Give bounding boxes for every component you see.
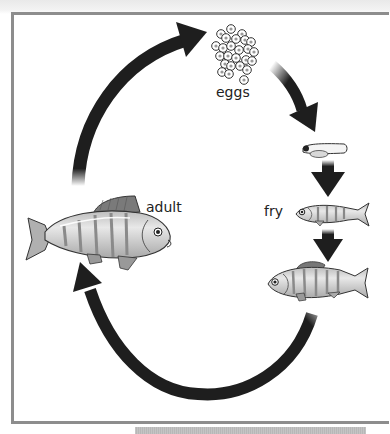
fry-fish-icon <box>296 203 369 226</box>
juvenile-fish-icon <box>268 262 368 301</box>
arrow-larva-to-fry <box>311 160 345 197</box>
eggs-cluster-icon <box>212 25 259 85</box>
arrow-eggs-to-larva <box>272 65 318 132</box>
adult-label: adult <box>146 199 182 215</box>
life-cycle-diagram <box>0 0 390 434</box>
arrow-fry-to-juvenile <box>313 229 343 262</box>
fry-label: fry <box>264 203 283 219</box>
arrow-adult-to-eggs <box>78 22 207 186</box>
larva-fish-icon <box>303 144 347 158</box>
eggs-label: eggs <box>216 84 250 100</box>
